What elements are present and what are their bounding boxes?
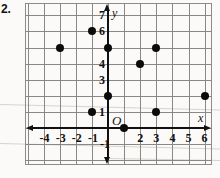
y-axis-label: y	[112, 7, 117, 19]
problem-number: 2.	[1, 2, 11, 16]
grid-line-horizontal	[25, 48, 212, 49]
graph-border	[25, 3, 212, 165]
grid-line-horizontal	[25, 96, 212, 97]
y-tick-label--1: -1	[100, 138, 110, 150]
x-tick-label-2: 2	[137, 132, 143, 144]
x-tick-label--3: -3	[56, 132, 66, 144]
grid-line-horizontal	[25, 31, 212, 32]
x-axis-label: x	[198, 112, 203, 124]
y-tick-label-6: 6	[99, 25, 105, 37]
data-point	[56, 44, 64, 52]
grid-line-horizontal	[25, 144, 212, 145]
y-axis-line	[107, 10, 109, 158]
y-tick-label-7: 7	[99, 9, 105, 21]
data-point	[104, 44, 112, 52]
data-point	[104, 92, 112, 100]
x-tick-label--2: -2	[72, 132, 82, 144]
x-tick-label--4: -4	[40, 132, 50, 144]
y-tick-label-3: 3	[99, 74, 105, 86]
grid-line-horizontal	[25, 160, 212, 161]
grid-line-horizontal	[25, 80, 212, 81]
x-tick-label-6: 6	[202, 132, 208, 144]
data-point	[152, 44, 160, 52]
x-tick-label-4: 4	[169, 132, 175, 144]
y-axis-arrow-down	[104, 157, 110, 164]
coordinate-grid-figure: -4-3-2-12345676431-1xyO	[25, 3, 212, 165]
data-point	[88, 108, 96, 116]
x-tick-label--1: -1	[88, 132, 98, 144]
grid-line-horizontal	[25, 15, 212, 16]
grid-line-vertical	[124, 3, 125, 165]
x-axis-arrow-right	[204, 125, 211, 131]
y-tick-label-4: 4	[99, 58, 105, 70]
x-tick-label-3: 3	[153, 132, 159, 144]
y-tick-label-1: 1	[99, 106, 105, 118]
x-tick-label-5: 5	[186, 132, 192, 144]
data-point	[136, 60, 144, 68]
data-point	[201, 92, 209, 100]
x-axis-arrow-left	[26, 125, 33, 131]
grid-line-vertical	[28, 3, 29, 165]
grid-line-horizontal	[25, 64, 212, 65]
